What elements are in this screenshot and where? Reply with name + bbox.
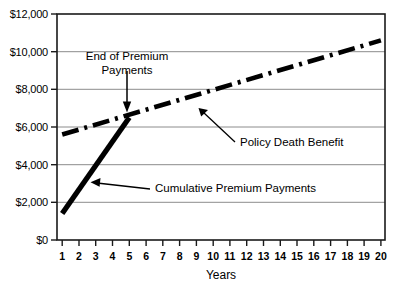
annotation-policy-death-benefit: Policy Death Benefit [240, 136, 344, 150]
annotation-end-of-premium-payments-line1: End of Premium [67, 50, 187, 64]
ytick-label-2000: $2,000 [0, 196, 48, 208]
ytick-label-6000: $6,000 [0, 121, 48, 133]
ytick-label-10000: $10,000 [0, 46, 48, 58]
annotation-end-of-premium-payments: End of Premium Payments [67, 50, 187, 77]
annotation-cumulative-premium-payments: Cumulative Premium Payments [155, 182, 316, 196]
chart-figure: $12,000 $10,000 $8,000 $6,000 $4,000 $2,… [0, 0, 406, 292]
y-axis-ticks [51, 14, 57, 240]
ytick-label-0: $0 [0, 234, 48, 246]
ytick-label-4000: $4,000 [0, 159, 48, 171]
x-axis-title: Years [171, 268, 271, 282]
xtick-label-20: 20 [369, 250, 393, 262]
annotation-end-of-premium-payments-line2: Payments [67, 64, 187, 78]
ytick-label-12000: $12,000 [0, 8, 48, 20]
annotation-policy-death-benefit-label: Policy Death Benefit [240, 136, 344, 148]
chart-canvas [0, 0, 406, 292]
x-axis-ticks [62, 240, 381, 246]
ytick-label-8000: $8,000 [0, 83, 48, 95]
annotation-cumulative-premium-payments-label: Cumulative Premium Payments [155, 182, 316, 194]
